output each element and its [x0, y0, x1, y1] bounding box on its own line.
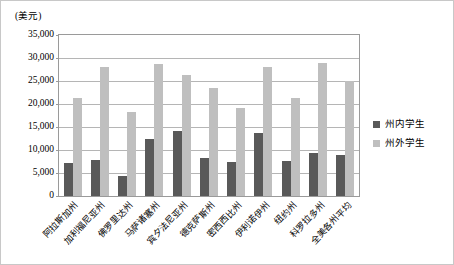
y-tick-label: 35,000 — [4, 30, 59, 40]
bar-out-state — [318, 63, 327, 196]
legend-swatch-in-state-icon — [373, 121, 380, 128]
bar-group — [59, 35, 86, 196]
x-label-slot: 伊利诺伊州 — [250, 198, 277, 264]
y-tick-label: 20,000 — [4, 99, 59, 109]
chart-legend: 州内学生 州外学生 — [373, 116, 425, 154]
y-tick-label: 0 — [4, 191, 59, 201]
legend-label-out-state: 州外学生 — [385, 135, 425, 151]
y-tick-label: 30,000 — [4, 53, 59, 63]
chart-container: (美元) 35,00030,00025,00020,00015,00010,00… — [0, 0, 454, 265]
bar-in-state — [64, 163, 73, 196]
x-axis-labels: 阿拉斯加州加利福尼亚州佛罗里达州马萨诸塞州宾夕法尼亚州德克萨斯州密西西比州伊利诺… — [58, 198, 360, 264]
y-axis-unit-label: (美元) — [15, 11, 41, 22]
legend-item-out-state: 州外学生 — [373, 135, 425, 151]
legend-swatch-out-state-icon — [373, 140, 380, 147]
bar-out-state — [127, 112, 136, 196]
bar-group — [304, 35, 331, 196]
bar-out-state — [73, 98, 82, 196]
y-tick-label: 10,000 — [4, 145, 59, 155]
y-tick-label: 15,000 — [4, 122, 59, 132]
y-tick-label: 25,000 — [4, 76, 59, 86]
x-label-slot: 全美各州平均 — [333, 198, 360, 264]
legend-item-in-state: 州内学生 — [373, 116, 425, 132]
y-tick-label: 5,000 — [4, 168, 59, 178]
x-axis-category-text: 纽约州 — [273, 200, 299, 227]
legend-label-in-state: 州内学生 — [385, 116, 425, 132]
